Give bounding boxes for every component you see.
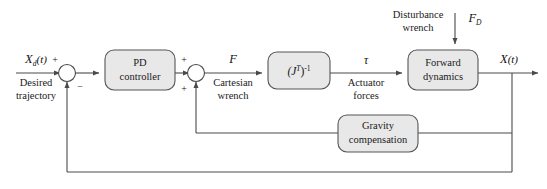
disturbance-caption-line1: Disturbance	[393, 9, 444, 20]
sum1-minus-sign: −	[77, 81, 83, 92]
desired-caption-line2: trajectory	[16, 90, 57, 101]
block-forward-dynamics	[408, 50, 478, 90]
jacobian-inverse-exp: -1	[304, 64, 310, 73]
disturbance-caption-line2: wrench	[403, 22, 435, 33]
summing-junction-2	[188, 65, 205, 82]
forward-dynamics-label-line1: Forward	[425, 57, 461, 68]
summing-junction-1	[59, 65, 76, 82]
torque-caption-line1: Actuator	[348, 77, 385, 88]
sum2-plus-bottom-sign: +	[181, 83, 187, 94]
desired-symbol-arg: (t)	[37, 53, 48, 66]
torque-symbol: τ	[364, 54, 369, 66]
desired-caption-line1: Desired	[20, 77, 53, 88]
cartesian-wrench-symbol: F	[228, 52, 237, 66]
gravity-compensation-label-line1: Gravity	[362, 120, 395, 131]
disturbance-symbol: FD	[467, 11, 482, 27]
pd-controller-label-line2: controller	[120, 71, 161, 82]
disturbance-symbol-sub: D	[475, 18, 482, 27]
block-diagram-canvas: PD controller (JT)-1 Forward dynamics Gr…	[0, 0, 547, 189]
block-diagram-svg: PD controller (JT)-1 Forward dynamics Gr…	[0, 0, 547, 189]
cartesian-caption-line2: wrench	[218, 90, 250, 101]
pd-controller-label-line1: PD	[133, 57, 147, 68]
torque-caption-line2: forces	[353, 90, 379, 101]
block-pd-controller	[105, 50, 175, 90]
sum2-plus-top-sign: +	[181, 54, 187, 65]
disturbance-symbol-f: F	[467, 11, 476, 25]
forward-dynamics-label-line2: dynamics	[423, 71, 463, 82]
gravity-compensation-label-line2: compensation	[349, 134, 408, 145]
desired-trajectory-symbol: Xd(t)	[24, 52, 47, 68]
output-symbol-arg: (t)	[508, 53, 519, 66]
cartesian-caption-line1: Cartesian	[213, 77, 253, 88]
sum1-plus-sign: +	[52, 54, 58, 65]
output-symbol: X(t)	[499, 52, 518, 66]
